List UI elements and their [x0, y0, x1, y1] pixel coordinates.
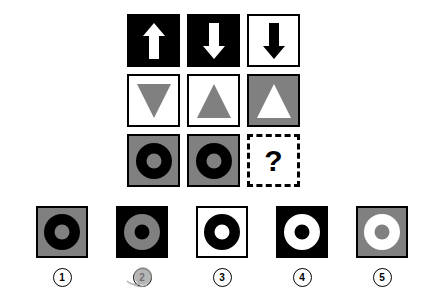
answer-option-4-label[interactable]: 4 [293, 268, 312, 287]
arrow-down-icon [202, 22, 226, 60]
matrix-cell-r1c2 [187, 14, 240, 67]
arrow-up-icon [142, 22, 166, 60]
answer-options: 1 2 3 [0, 206, 424, 287]
answer-option-5-number: 5 [379, 273, 385, 283]
matrix-cell-r1c3 [247, 14, 300, 67]
triangle-up-icon [195, 82, 233, 120]
answer-option-4-number: 4 [299, 273, 305, 283]
arrow-down-icon [262, 22, 286, 60]
answer-option-5-figure[interactable] [356, 206, 408, 258]
triangle-up-icon [255, 82, 293, 120]
answer-option-3-figure[interactable] [196, 206, 248, 258]
ring-icon [194, 141, 234, 181]
matrix-cell-r1c1 [127, 14, 180, 67]
answer-option-3-number: 3 [219, 273, 225, 283]
answer-option-2-number: 2 [139, 273, 145, 283]
answer-option-3-label[interactable]: 3 [213, 268, 232, 287]
answer-option-5[interactable]: 5 [342, 206, 422, 287]
ring-icon [282, 212, 322, 252]
answer-option-1-figure[interactable] [36, 206, 88, 258]
ring-icon [42, 212, 82, 252]
triangle-down-icon [135, 82, 173, 120]
answer-option-3[interactable]: 3 [182, 206, 262, 287]
ring-icon [134, 141, 174, 181]
matrix-cell-r2c1 [127, 74, 180, 127]
ring-icon [122, 212, 162, 252]
matrix-cell-r2c2 [187, 74, 240, 127]
puzzle-matrix: ? [127, 14, 300, 187]
ring-icon [362, 212, 402, 252]
answer-option-1-label[interactable]: 1 [53, 268, 72, 287]
answer-option-2-figure[interactable] [116, 206, 168, 258]
answer-option-1[interactable]: 1 [22, 206, 102, 287]
answer-option-4[interactable]: 4 [262, 206, 342, 287]
answer-option-4-figure[interactable] [276, 206, 328, 258]
matrix-cell-r3c2 [187, 134, 240, 187]
answer-option-5-label[interactable]: 5 [373, 268, 392, 287]
answer-option-2-label[interactable]: 2 [133, 268, 152, 287]
ring-icon [202, 212, 242, 252]
missing-cell: ? [247, 134, 300, 187]
answer-option-1-number: 1 [59, 273, 65, 283]
matrix-cell-r2c3 [247, 74, 300, 127]
matrix-cell-r3c1 [127, 134, 180, 187]
question-mark-label: ? [264, 146, 282, 176]
answer-option-2[interactable]: 2 [102, 206, 182, 287]
